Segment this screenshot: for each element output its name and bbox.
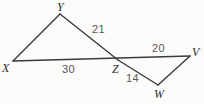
vertex-label-V: V [192,46,199,58]
vertex-label-Y: Y [57,1,64,13]
vertex-label-Z: Z [112,63,119,75]
segment-X-V [13,56,190,61]
vertex-label-X: X [2,62,9,74]
side-length-YZ: 21 [92,24,105,35]
geometry-figure: Y X Z V W 21 30 20 14 [0,0,204,104]
segment-Y-Z [60,14,118,60]
vertex-label-W: W [154,88,164,100]
segment-X-Y [13,14,60,61]
side-length-ZW: 14 [126,73,139,84]
side-length-XZ: 30 [62,64,75,75]
segment-W-V [158,56,190,85]
side-length-ZV: 20 [152,43,165,54]
figure-canvas [0,0,204,104]
